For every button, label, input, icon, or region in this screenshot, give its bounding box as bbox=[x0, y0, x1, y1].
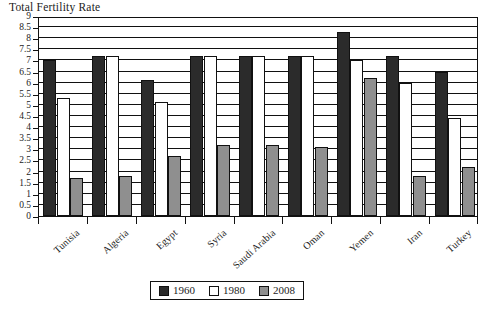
plot-area bbox=[38, 17, 478, 217]
x-tick-label-text: Saudi Arabia bbox=[231, 227, 278, 271]
y-tick-label: 6 bbox=[26, 79, 31, 89]
y-tick-label: 3 bbox=[26, 146, 31, 156]
y-tick-label: 3.5 bbox=[19, 134, 31, 144]
y-tick-label: 4.5 bbox=[19, 112, 31, 122]
legend-swatch-2008 bbox=[259, 286, 269, 296]
x-tick-label-text: Algeria bbox=[101, 227, 131, 256]
legend-item-1980: 1980 bbox=[209, 285, 245, 296]
legend-item-1960: 1960 bbox=[159, 285, 195, 296]
x-tick-label-text: Turkey bbox=[444, 227, 473, 255]
bar-saudi-arabia-2008 bbox=[266, 145, 279, 216]
chart-figure: Total Fertility Rate 98.587.576.565.554.… bbox=[0, 0, 490, 312]
y-tick-label: 2.5 bbox=[19, 157, 31, 167]
x-tick-label-iran: Iran bbox=[417, 216, 437, 235]
y-tick-label: 5 bbox=[26, 101, 31, 111]
bar-turkey-1960 bbox=[435, 72, 448, 216]
bar-group bbox=[39, 18, 88, 216]
y-tick-label: 7 bbox=[26, 57, 31, 67]
legend-label-1960: 1960 bbox=[173, 285, 195, 296]
chart-title: Total Fertility Rate bbox=[9, 1, 100, 13]
bar-yemen-1960 bbox=[337, 32, 350, 216]
bar-group bbox=[88, 18, 137, 216]
bar-algeria-1960 bbox=[92, 56, 105, 216]
legend-label-2008: 2008 bbox=[273, 285, 295, 296]
bar-yemen-1980 bbox=[350, 60, 363, 216]
y-tick-label: 1 bbox=[26, 190, 31, 200]
bar-iran-1960 bbox=[386, 56, 399, 216]
y-axis: 98.587.576.565.554.543.532.521.510.50 bbox=[0, 17, 38, 217]
bar-iran-2008 bbox=[413, 176, 426, 216]
bar-yemen-2008 bbox=[364, 78, 377, 216]
legend-item-2008: 2008 bbox=[259, 285, 295, 296]
x-tick-label-text: Oman bbox=[300, 227, 326, 252]
bar-group bbox=[381, 18, 430, 216]
bar-tunisia-1980 bbox=[57, 98, 70, 216]
x-tick-label-text: Egypt bbox=[154, 227, 179, 251]
bar-oman-1960 bbox=[288, 56, 301, 216]
bar-algeria-2008 bbox=[119, 176, 132, 216]
x-axis: TunisiaAlgeriaEgyptSyriaSaudi ArabiaOman… bbox=[38, 217, 478, 277]
bar-group bbox=[430, 18, 478, 216]
bar-syria-1980 bbox=[204, 56, 217, 216]
y-tick-label: 1.5 bbox=[19, 179, 31, 189]
bar-turkey-1980 bbox=[448, 118, 461, 216]
legend-swatch-1980 bbox=[209, 286, 219, 296]
x-tick-label-text: Tunisia bbox=[52, 227, 82, 255]
y-tick-label: 4 bbox=[26, 123, 31, 133]
x-tick-mark bbox=[38, 217, 39, 224]
bar-iran-1980 bbox=[399, 83, 412, 216]
bar-tunisia-1960 bbox=[43, 60, 56, 216]
chart-legend: 196019802008 bbox=[150, 281, 304, 300]
bar-egypt-1960 bbox=[141, 80, 154, 216]
bar-oman-2008 bbox=[315, 147, 328, 216]
bar-egypt-1980 bbox=[155, 102, 168, 216]
bar-syria-1960 bbox=[190, 56, 203, 216]
bar-group bbox=[235, 18, 284, 216]
bar-tunisia-2008 bbox=[70, 178, 83, 216]
bar-group bbox=[332, 18, 381, 216]
y-tick-label: 8 bbox=[26, 34, 31, 44]
bar-saudi-arabia-1980 bbox=[252, 56, 265, 216]
y-tick-label: 5.5 bbox=[19, 90, 31, 100]
bars-layer bbox=[39, 18, 477, 216]
bar-syria-2008 bbox=[217, 145, 230, 216]
y-tick-label: 7.5 bbox=[19, 46, 31, 56]
bar-group bbox=[283, 18, 332, 216]
y-tick-label: 8.5 bbox=[19, 23, 31, 33]
bar-turkey-2008 bbox=[462, 167, 475, 216]
bar-group bbox=[137, 18, 186, 216]
legend-label-1980: 1980 bbox=[223, 285, 245, 296]
bar-egypt-2008 bbox=[168, 156, 181, 216]
y-tick-label: 0.5 bbox=[19, 201, 31, 211]
x-tick-label-text: Yemen bbox=[347, 227, 375, 254]
y-tick-label: 0 bbox=[26, 212, 31, 222]
y-tick-label: 6.5 bbox=[19, 68, 31, 78]
legend-swatch-1960 bbox=[159, 286, 169, 296]
bar-group bbox=[186, 18, 235, 216]
x-tick-label-text: Iran bbox=[404, 227, 424, 246]
bar-saudi-arabia-1960 bbox=[239, 56, 252, 216]
bar-algeria-1980 bbox=[106, 56, 119, 216]
y-tick-label: 2 bbox=[26, 168, 31, 178]
x-tick-label-text: Syria bbox=[205, 227, 228, 250]
y-tick-label: 9 bbox=[26, 12, 31, 22]
